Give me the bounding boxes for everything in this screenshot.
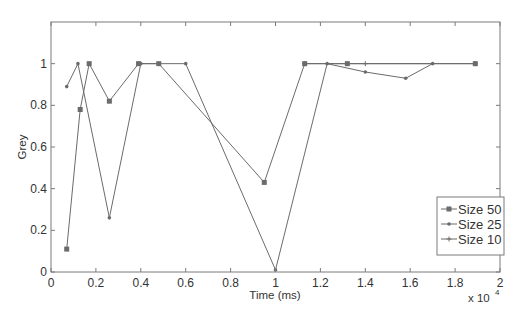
y-tick-label: 0.6	[30, 140, 47, 154]
square-marker	[262, 180, 267, 185]
square-marker	[107, 99, 112, 104]
x-tick-label: 1.8	[447, 276, 464, 290]
dot-marker	[447, 222, 451, 226]
axes-frame	[51, 22, 500, 272]
series-line	[67, 64, 476, 249]
x-tick-label: 1.6	[402, 276, 419, 290]
dot-marker	[139, 62, 143, 66]
x-tick-label: 0.2	[88, 276, 105, 290]
y-tick-label: 0.4	[30, 182, 47, 196]
y-tick-label: 0.8	[30, 98, 47, 112]
line-chart: 00.20.40.60.811.21.41.61.8200.20.40.60.8…	[0, 0, 522, 319]
series-size-10	[302, 61, 478, 66]
series-size-25	[65, 62, 435, 272]
x-tick-label: 0.8	[222, 276, 239, 290]
series-line	[67, 64, 433, 270]
x-tick-label: 1.2	[312, 276, 329, 290]
series-layer	[64, 61, 478, 272]
y-tick-label: 1	[40, 57, 47, 71]
x-tick-label: 0.4	[132, 276, 149, 290]
x-multiplier-exponent: 4	[495, 288, 500, 297]
y-tick-label: 0.2	[30, 223, 47, 237]
y-tick-label: 0	[40, 265, 47, 279]
square-marker	[64, 247, 69, 252]
dot-marker	[108, 216, 112, 220]
series-size-50	[64, 61, 478, 251]
legend-label: Size 50	[458, 202, 501, 217]
legend-label: Size 10	[458, 232, 501, 247]
dot-marker	[364, 70, 368, 74]
x-tick-label: 1	[272, 276, 279, 290]
dot-marker	[404, 76, 408, 80]
x-axis-label: Time (ms)	[249, 289, 300, 301]
x-multiplier-base: x 10	[468, 292, 490, 304]
legend-label: Size 25	[458, 217, 501, 232]
x-multiplier: x 10 4	[468, 288, 500, 304]
dot-marker	[65, 85, 69, 89]
square-marker	[447, 207, 452, 212]
square-marker	[87, 61, 92, 66]
x-tick-label: 0.6	[177, 276, 194, 290]
x-tick-label: 0	[48, 276, 55, 290]
y-axis-label: Grey	[16, 134, 28, 159]
x-tick-label: 1.4	[357, 276, 374, 290]
legend: Size 50Size 25Size 10	[437, 197, 504, 255]
dot-marker	[184, 62, 188, 66]
square-marker	[78, 107, 83, 112]
dot-marker	[76, 62, 80, 66]
